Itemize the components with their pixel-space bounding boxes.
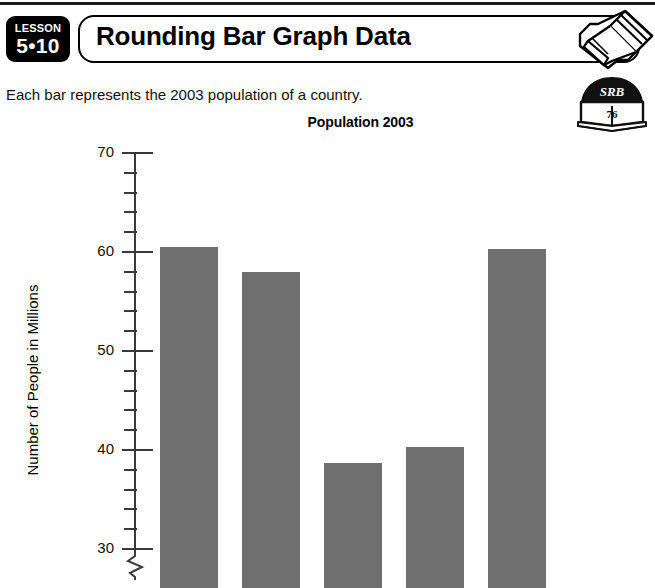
y-axis-minor-tick bbox=[124, 192, 137, 194]
y-axis-minor-tick bbox=[124, 172, 137, 174]
bar bbox=[242, 272, 300, 588]
y-axis-minor-tick bbox=[124, 469, 137, 471]
y-axis-minor-tick bbox=[124, 291, 137, 293]
bar bbox=[324, 463, 382, 588]
y-axis-tick-label: 60 bbox=[14, 242, 114, 259]
y-axis-minor-tick bbox=[124, 489, 137, 491]
y-axis-minor-tick bbox=[124, 231, 137, 233]
y-axis-minor-tick bbox=[124, 310, 137, 312]
y-axis-minor-tick bbox=[124, 508, 137, 510]
y-axis-major-tick bbox=[122, 152, 153, 154]
y-axis-tick-label: 40 bbox=[14, 440, 114, 457]
y-axis-minor-tick bbox=[124, 390, 137, 392]
y-axis-minor-tick bbox=[124, 409, 137, 411]
bar bbox=[406, 447, 464, 588]
y-axis-minor-tick bbox=[124, 271, 137, 273]
y-axis-minor-tick bbox=[124, 330, 137, 332]
y-axis-tick-label: 70 bbox=[14, 143, 114, 160]
y-axis-minor-tick bbox=[124, 429, 137, 431]
y-axis-tick-label: 50 bbox=[14, 341, 114, 358]
y-axis-minor-tick bbox=[124, 370, 137, 372]
y-axis-major-tick bbox=[122, 350, 153, 352]
axis-break-symbol bbox=[126, 550, 146, 580]
y-axis-major-tick bbox=[122, 548, 153, 550]
y-axis-major-tick bbox=[122, 251, 153, 253]
y-axis-major-tick bbox=[122, 449, 153, 451]
bar bbox=[488, 249, 546, 588]
y-axis-minor-tick bbox=[124, 211, 137, 213]
y-axis-minor-tick bbox=[124, 528, 137, 530]
bar bbox=[160, 247, 218, 588]
bar-chart-plot: 7060504030 bbox=[0, 0, 655, 588]
y-axis-tick-label: 30 bbox=[14, 539, 114, 556]
